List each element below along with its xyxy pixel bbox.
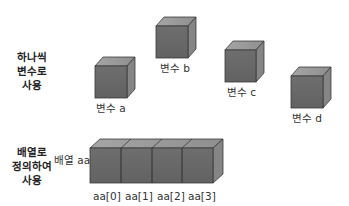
label-array-element-2: aa[2] [157, 189, 185, 203]
label-array-name: 배열 aa [54, 153, 90, 167]
group-label-line: 배열로 [6, 145, 58, 159]
group-label-individual-variables: 하나씩 변수로 사용 [12, 50, 52, 92]
array-block [90, 139, 223, 183]
group-label-line: 변수로 [12, 64, 52, 78]
group-label-line: 사용 [12, 78, 52, 92]
cube-variable-d [291, 67, 331, 108]
label-variable-d: 변수 d [292, 111, 322, 125]
cube-variable-a [95, 57, 135, 98]
group-label-array: 배열로 정의하여 사용 [6, 145, 58, 187]
cube-variable-c [225, 41, 264, 82]
label-variable-c: 변수 c [227, 85, 256, 99]
label-array-element-3: aa[3] [188, 189, 216, 203]
group-label-line: 하나씩 [12, 50, 52, 64]
group-label-line: 사용 [6, 173, 58, 187]
label-variable-a: 변수 a [96, 101, 126, 115]
label-array-element-0: aa[0] [93, 189, 121, 203]
label-array-element-1: aa[1] [125, 189, 153, 203]
cube-variable-b [156, 17, 196, 58]
group-label-line: 정의하여 [6, 159, 58, 173]
label-variable-b: 변수 b [160, 61, 190, 75]
